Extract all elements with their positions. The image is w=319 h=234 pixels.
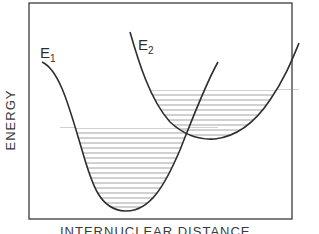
energy-diagram — [0, 0, 319, 234]
plot-frame — [29, 3, 292, 219]
y-axis-label: ENERGY — [3, 90, 18, 151]
x-axis-label: INTERNUCLEAR DISTANCE — [60, 224, 251, 234]
e1-label: E1 — [40, 44, 56, 64]
e2-curve — [130, 32, 299, 139]
e2-label: E2 — [138, 36, 154, 56]
e1-vibrational-levels — [40, 128, 230, 207]
